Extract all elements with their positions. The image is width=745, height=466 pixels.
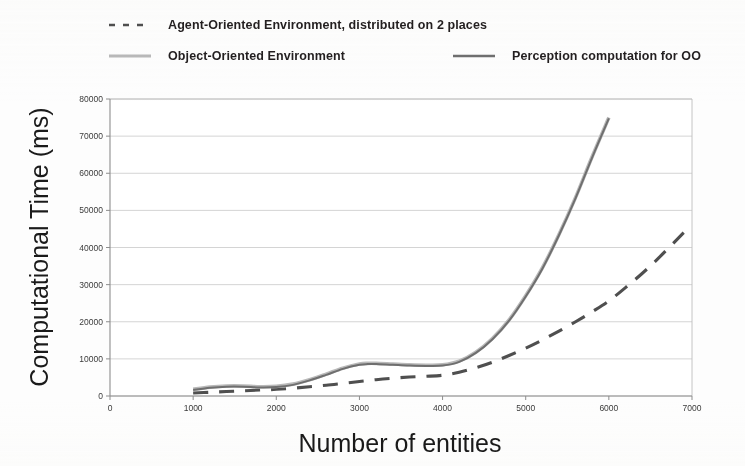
y-axis-tick-labels: 0100002000030000400005000060000700008000… (79, 94, 103, 401)
chart-plot-area: 0100002000030000400005000060000700008000… (0, 0, 745, 466)
x-tick-label: 2000 (267, 403, 286, 413)
x-tick-label: 5000 (516, 403, 535, 413)
y-tick-label: 70000 (79, 131, 103, 141)
y-tick-label: 30000 (79, 280, 103, 290)
x-tick-label: 6000 (599, 403, 618, 413)
x-tick-label: 3000 (350, 403, 369, 413)
x-tick-label: 7000 (683, 403, 702, 413)
y-axis-title: Computational Time (ms) (25, 107, 53, 386)
y-tick-label: 20000 (79, 317, 103, 327)
y-tick-label: 60000 (79, 168, 103, 178)
x-axis-title: Number of entities (299, 429, 502, 457)
y-tick-label: 50000 (79, 205, 103, 215)
y-tick-label: 40000 (79, 243, 103, 253)
y-tick-label: 80000 (79, 94, 103, 104)
chart-canvas: 0100002000030000400005000060000700008000… (0, 0, 745, 466)
x-tick-label: 1000 (184, 403, 203, 413)
x-tick-label: 4000 (433, 403, 452, 413)
y-tick-label: 0 (98, 391, 103, 401)
chart-figure: Agent-Oriented Environment, distributed … (0, 0, 745, 466)
x-axis-tick-labels: 01000200030004000500060007000 (108, 403, 702, 413)
y-axis-ticks (106, 99, 110, 396)
x-tick-label: 0 (108, 403, 113, 413)
x-axis-ticks (110, 396, 692, 400)
y-tick-label: 10000 (79, 354, 103, 364)
